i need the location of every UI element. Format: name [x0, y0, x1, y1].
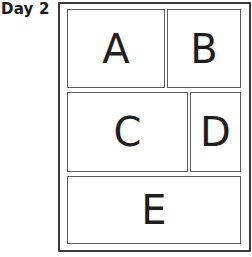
panel-d: D	[190, 92, 241, 172]
panel-b: B	[167, 9, 241, 88]
panel-a-label: A	[102, 29, 129, 69]
panel-c: C	[67, 92, 188, 172]
panel-a: A	[67, 9, 165, 88]
panel-b-label: B	[190, 29, 217, 69]
day-title: Day 2	[1, 1, 50, 18]
panel-c-label: C	[114, 112, 142, 152]
panel-e: E	[67, 176, 241, 244]
panel-d-label: D	[200, 112, 231, 152]
panel-e-label: E	[141, 190, 166, 230]
